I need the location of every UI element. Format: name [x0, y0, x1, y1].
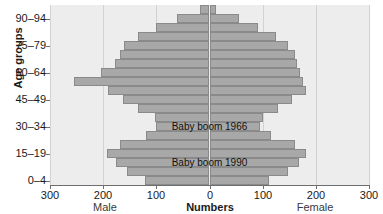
bar-male-80–84 [138, 32, 210, 41]
bar-female-5–9 [210, 167, 289, 176]
y-tick [46, 73, 50, 74]
gridline [103, 5, 104, 185]
bar-female-50–54 [210, 86, 307, 95]
bar-male-0–4 [145, 176, 210, 185]
bar-female-60–64 [210, 68, 300, 77]
bar-male-95+ [200, 5, 210, 14]
x-tick-label: 200 [83, 189, 123, 201]
bar-female-55–59 [210, 77, 303, 86]
x-axis-title: Numbers [170, 201, 250, 213]
bar-male-45–49 [123, 95, 209, 104]
x-tick-label: 200 [296, 189, 336, 201]
x-axis-line [50, 185, 370, 186]
bar-female-0–4 [210, 176, 270, 185]
x-tick-label: 300 [349, 189, 383, 201]
gridline [50, 5, 51, 185]
bar-male-85–89 [156, 23, 209, 32]
bar-female-25–29 [210, 131, 271, 140]
gridline [316, 5, 317, 185]
x-axis-female-label: Female [275, 201, 355, 213]
y-axis-title: Age groups [12, 13, 24, 103]
y-tick [46, 154, 50, 155]
bar-female-75–79 [210, 41, 289, 50]
annotation-label: Baby boom 1990 [165, 157, 255, 168]
bar-female-45–49 [210, 95, 292, 104]
y-tick-label: 75–79 [0, 39, 46, 51]
bar-female-70–74 [210, 50, 295, 59]
bar-female-80–84 [210, 32, 276, 41]
y-tick-label: 90–94 [0, 12, 46, 24]
y-tick [46, 127, 50, 128]
bar-male-70–74 [120, 50, 209, 59]
bar-female-85–89 [210, 23, 259, 32]
bar-female-90–94 [210, 14, 239, 23]
bar-female-95+ [210, 5, 216, 14]
bar-male-90–94 [177, 14, 210, 23]
x-tick-label: 100 [136, 189, 176, 201]
x-tick-label: 100 [243, 189, 283, 201]
bar-male-60–64 [101, 68, 210, 77]
bar-male-50–54 [108, 86, 209, 95]
y-tick-label: 15–19 [0, 147, 46, 159]
y-tick [46, 181, 50, 182]
y-tick-label: 45–49 [0, 93, 46, 105]
bar-male-20–24 [120, 140, 209, 149]
bar-male-75–79 [124, 41, 209, 50]
bar-female-20–24 [210, 140, 295, 149]
y-tick-label: 0–4 [0, 174, 46, 186]
bar-male-25–29 [146, 131, 210, 140]
bar-male-5–9 [127, 167, 209, 176]
bar-male-65–69 [115, 59, 210, 68]
x-tick-label: 0 [190, 189, 230, 201]
gridline [369, 5, 370, 185]
bar-female-40–44 [210, 104, 278, 113]
y-tick-label: 60–64 [0, 66, 46, 78]
bar-male-40–44 [138, 104, 210, 113]
y-tick [46, 19, 50, 20]
y-tick [46, 100, 50, 101]
y-tick [46, 46, 50, 47]
x-tick-label: 300 [30, 189, 70, 201]
bar-female-65–69 [210, 59, 298, 68]
x-axis-male-label: Male [65, 201, 145, 213]
y-tick-label: 30–34 [0, 120, 46, 132]
bar-male-55–59 [74, 77, 210, 86]
annotation-label: Baby boom 1966 [165, 121, 255, 132]
